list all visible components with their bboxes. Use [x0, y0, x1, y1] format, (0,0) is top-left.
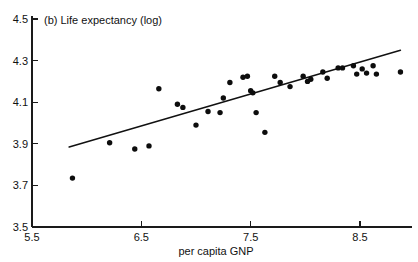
y-axis-tick-labels: 4.5 4.3 4.1 3.9 3.7 3.5 — [13, 13, 28, 233]
x-tick-label-5.5: 5.5 — [24, 231, 39, 243]
data-point — [70, 175, 75, 180]
data-point — [287, 84, 292, 89]
data-point — [221, 95, 226, 100]
regression-line — [69, 50, 400, 147]
data-point — [300, 74, 305, 79]
data-point — [340, 65, 345, 70]
x-axis-title: per capita GNP — [178, 245, 253, 257]
data-point — [272, 74, 277, 79]
x-tick-label-8.5: 8.5 — [352, 231, 367, 243]
x-tick-label-7.5: 7.5 — [243, 231, 258, 243]
data-point — [107, 140, 112, 145]
data-point — [156, 86, 161, 91]
data-point — [262, 130, 267, 135]
scatter-plot: 4.5 4.3 4.1 3.9 3.7 3.5 5.5 6.5 7.5 8.5 … — [0, 0, 418, 262]
data-point — [132, 146, 137, 151]
data-point — [354, 71, 359, 76]
y-axis-ticks — [32, 19, 38, 227]
y-tick-label-4.1: 4.1 — [13, 96, 28, 108]
data-point — [250, 90, 255, 95]
data-point — [374, 71, 379, 76]
data-point — [370, 63, 375, 68]
data-point — [351, 63, 356, 68]
data-point — [364, 70, 369, 75]
x-axis-tick-labels: 5.5 6.5 7.5 8.5 — [24, 231, 367, 243]
data-point — [193, 122, 198, 127]
data-point — [398, 69, 403, 74]
y-tick-label-3.7: 3.7 — [13, 179, 28, 191]
data-point — [205, 109, 210, 114]
data-point — [359, 66, 364, 71]
y-tick-label-4.5: 4.5 — [13, 13, 28, 25]
data-point — [277, 80, 282, 85]
y-tick-label-3.9: 3.9 — [13, 138, 28, 150]
data-point — [325, 76, 330, 81]
data-point — [175, 102, 180, 107]
x-tick-label-6.5: 6.5 — [134, 231, 149, 243]
data-point — [253, 110, 258, 115]
x-axis-ticks — [32, 221, 360, 227]
panel-title: (b) Life expectancy (log) — [44, 14, 162, 26]
data-point — [180, 105, 185, 110]
y-tick-label-4.3: 4.3 — [13, 55, 28, 67]
data-point — [217, 110, 222, 115]
data-point — [245, 74, 250, 79]
data-point — [146, 143, 151, 148]
data-point — [320, 69, 325, 74]
data-point — [308, 77, 313, 82]
figure-container: 4.5 4.3 4.1 3.9 3.7 3.5 5.5 6.5 7.5 8.5 … — [0, 0, 418, 262]
data-point — [227, 80, 232, 85]
data-points-layer — [70, 63, 403, 181]
